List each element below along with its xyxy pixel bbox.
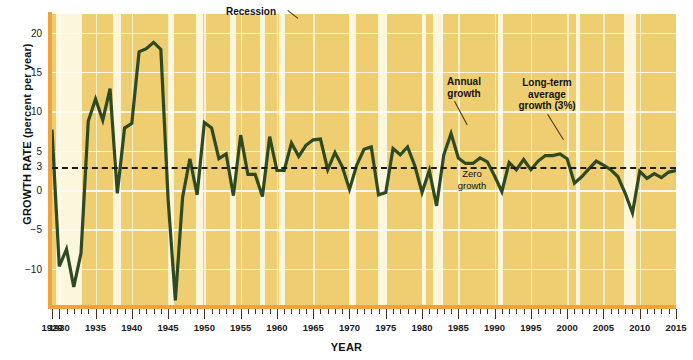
x-tick-label: 1955 bbox=[230, 322, 251, 333]
x-tick-major bbox=[52, 309, 53, 319]
x-tick-minor bbox=[110, 309, 111, 314]
x-tick-minor bbox=[183, 309, 184, 314]
x-tick-minor bbox=[654, 309, 655, 314]
x-tick-major bbox=[96, 309, 97, 319]
x-tick-minor bbox=[437, 309, 438, 314]
x-tick-minor bbox=[103, 309, 104, 314]
x-tick-major bbox=[204, 309, 205, 319]
x-tick-minor bbox=[538, 309, 539, 314]
annotation-recession: Recession bbox=[216, 6, 286, 18]
x-tick-minor bbox=[117, 309, 118, 314]
x-tick-minor bbox=[371, 309, 372, 314]
x-tick-major bbox=[168, 309, 169, 319]
x-tick-label: 1945 bbox=[158, 322, 179, 333]
x-tick-minor bbox=[306, 309, 307, 314]
x-tick-minor bbox=[596, 309, 597, 314]
x-tick-major bbox=[676, 309, 677, 319]
x-tick-minor bbox=[661, 309, 662, 314]
growth-rate-line bbox=[52, 14, 676, 305]
y-tick-label: 20 bbox=[2, 28, 42, 39]
x-tick-minor bbox=[611, 309, 612, 314]
x-tick-minor bbox=[67, 309, 68, 314]
x-tick-minor bbox=[524, 309, 525, 314]
x-tick-minor bbox=[255, 309, 256, 314]
y-tick-label: −5 bbox=[2, 224, 42, 235]
x-tick-minor bbox=[299, 309, 300, 314]
x-tick-minor bbox=[516, 309, 517, 314]
x-tick-minor bbox=[509, 309, 510, 314]
x-tick-minor bbox=[291, 309, 292, 314]
x-tick-major bbox=[241, 309, 242, 319]
x-tick-major bbox=[422, 309, 423, 319]
x-tick-minor bbox=[632, 309, 633, 314]
x-tick-major bbox=[132, 309, 133, 319]
x-tick-minor bbox=[226, 309, 227, 314]
x-tick-minor bbox=[154, 309, 155, 314]
x-tick-minor bbox=[582, 309, 583, 314]
x-tick-minor bbox=[212, 309, 213, 314]
x-tick-label: 1995 bbox=[520, 322, 541, 333]
x-tick-major bbox=[640, 309, 641, 319]
y-tick-label: 10 bbox=[2, 106, 42, 117]
x-tick-minor bbox=[270, 309, 271, 314]
x-tick-major bbox=[349, 309, 350, 319]
x-tick-label: 1950 bbox=[194, 322, 215, 333]
x-tick-label: 1980 bbox=[411, 322, 432, 333]
x-tick-label: 1940 bbox=[121, 322, 142, 333]
x-tick-minor bbox=[574, 309, 575, 314]
x-tick-label: 1960 bbox=[266, 322, 287, 333]
x-tick-major bbox=[386, 309, 387, 319]
x-tick-minor bbox=[502, 309, 503, 314]
x-tick-minor bbox=[262, 309, 263, 314]
x-tick-minor bbox=[444, 309, 445, 314]
x-tick-label: 1965 bbox=[303, 322, 324, 333]
x-tick-minor bbox=[233, 309, 234, 314]
x-tick-minor bbox=[429, 309, 430, 314]
y-tick-label: 5 bbox=[2, 146, 42, 157]
x-tick-label: 1930 bbox=[49, 322, 70, 333]
x-tick-minor bbox=[161, 309, 162, 314]
x-tick-minor bbox=[589, 309, 590, 314]
y-tick-label: −10 bbox=[2, 264, 42, 275]
x-tick-minor bbox=[335, 309, 336, 314]
x-tick-minor bbox=[139, 309, 140, 314]
x-axis-tick-labels: 1929193019351940194519501955196019651970… bbox=[0, 322, 693, 338]
x-tick-minor bbox=[451, 309, 452, 314]
x-tick-major bbox=[458, 309, 459, 319]
x-tick-minor bbox=[560, 309, 561, 314]
x-tick-minor bbox=[487, 309, 488, 314]
x-tick-label: 1990 bbox=[484, 322, 505, 333]
x-tick-minor bbox=[81, 309, 82, 314]
y-tick-label: 0 bbox=[2, 185, 42, 196]
x-tick-minor bbox=[74, 309, 75, 314]
x-tick-major bbox=[59, 309, 60, 319]
x-tick-minor bbox=[647, 309, 648, 314]
x-tick-minor bbox=[328, 309, 329, 314]
x-tick-label: 2015 bbox=[665, 322, 686, 333]
x-tick-major bbox=[603, 309, 604, 319]
x-tick-label: 1985 bbox=[448, 322, 469, 333]
x-tick-minor bbox=[146, 309, 147, 314]
x-tick-minor bbox=[197, 309, 198, 314]
x-tick-minor bbox=[466, 309, 467, 314]
x-tick-minor bbox=[219, 309, 220, 314]
plot-area bbox=[52, 14, 676, 305]
x-tick-minor bbox=[408, 309, 409, 314]
y-tick-label: 3 bbox=[2, 161, 42, 172]
x-tick-label: 1970 bbox=[339, 322, 360, 333]
x-tick-minor bbox=[88, 309, 89, 314]
x-tick-major bbox=[495, 309, 496, 319]
x-tick-minor bbox=[393, 309, 394, 314]
annotation-zero-growth: Zero growth bbox=[441, 168, 503, 191]
annotation-long-term-average: Long-term average growth (3%) bbox=[504, 77, 590, 112]
x-tick-label: 2005 bbox=[593, 322, 614, 333]
x-tick-minor bbox=[364, 309, 365, 314]
x-tick-minor bbox=[480, 309, 481, 314]
x-tick-minor bbox=[400, 309, 401, 314]
x-tick-minor bbox=[320, 309, 321, 314]
x-tick-label: 1975 bbox=[375, 322, 396, 333]
y-tick-label: 15 bbox=[2, 67, 42, 78]
x-tick-major bbox=[313, 309, 314, 319]
x-tick-minor bbox=[553, 309, 554, 314]
x-tick-minor bbox=[284, 309, 285, 314]
